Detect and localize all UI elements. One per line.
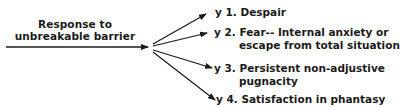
- outcome-3-text-cont: pugnacity: [214, 75, 385, 88]
- outcome-2-text: Fear-- Internal anxiety or: [239, 26, 388, 38]
- source-line-2: unbreakable barrier: [0, 30, 150, 42]
- outcome-1-marker: y 1.: [215, 6, 237, 18]
- outcome-2: y 2. Fear-- Internal anxiety or escape f…: [214, 26, 400, 51]
- source-label: Response to unbreakable barrier: [0, 18, 150, 42]
- outcome-4-marker: y 4.: [216, 93, 238, 105]
- outcome-2-marker: y 2.: [214, 26, 236, 38]
- source-line-1: Response to: [0, 18, 150, 30]
- outcome-3-text: Persistent non-adjustive: [239, 62, 384, 74]
- outcome-1: y 1. Despair: [215, 6, 286, 19]
- outcome-2-text-cont: escape from total situation: [214, 39, 400, 52]
- outcome-3-marker: y 3.: [214, 62, 236, 74]
- outcome-1-text: Despair: [240, 6, 285, 18]
- outcome-4-text: Satisfaction in phantasy: [241, 93, 385, 105]
- outcome-4: y 4. Satisfaction in phantasy: [216, 93, 385, 106]
- outcome-3: y 3. Persistent non-adjustive pugnacity: [214, 62, 385, 87]
